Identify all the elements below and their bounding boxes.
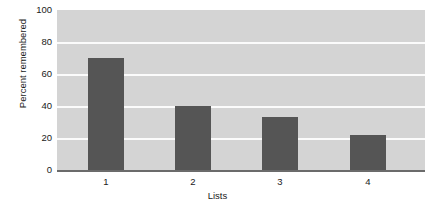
x-axis-tick-2: 2	[173, 176, 213, 187]
y-axis-tick-40: 40	[6, 101, 52, 111]
gridline-80	[57, 42, 425, 44]
x-axis-tick-1: 1	[86, 176, 126, 187]
x-axis-line	[57, 170, 425, 172]
x-axis-tick-3: 3	[260, 176, 300, 187]
plot-area	[57, 10, 425, 170]
y-axis-tick-0: 0	[6, 165, 52, 175]
bar-list-4	[350, 135, 386, 170]
x-axis-title: Lists	[0, 190, 435, 201]
y-axis-tick-80: 80	[6, 37, 52, 47]
x-axis-tick-4: 4	[348, 176, 388, 187]
bar-list-2	[175, 106, 211, 170]
bar-list-1	[88, 58, 124, 170]
bar-chart: 0 20 40 60 80 100 Percent remembered 1 2…	[0, 0, 435, 208]
y-axis-tick-20: 20	[6, 133, 52, 143]
bar-list-3	[262, 117, 298, 170]
y-axis-title: Percent remembered	[17, 0, 28, 130]
y-axis-tick-100: 100	[6, 5, 52, 15]
y-axis-tick-60: 60	[6, 69, 52, 79]
